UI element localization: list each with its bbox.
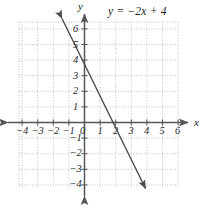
y-axis-label: y bbox=[78, 1, 83, 12]
coordinate-plane-svg bbox=[0, 0, 206, 212]
ytick-label--1: −1 bbox=[70, 133, 82, 144]
ytick-label--4: −4 bbox=[70, 179, 82, 190]
xtick-label--2: −2 bbox=[47, 126, 59, 137]
xtick-label-5: 5 bbox=[160, 126, 165, 137]
ytick-label--3: −3 bbox=[70, 164, 82, 175]
x-axis-label: x bbox=[194, 117, 199, 128]
ytick-label-6: 6 bbox=[73, 24, 78, 35]
xtick-label-3: 3 bbox=[129, 126, 134, 137]
xtick-label-6: 6 bbox=[175, 126, 180, 137]
xtick-label-4: 4 bbox=[144, 126, 149, 137]
ytick-label-2: 2 bbox=[73, 86, 78, 97]
ytick-label-4: 4 bbox=[73, 55, 78, 66]
graph-figure: y = −2x + 4 x y −4 −3 −2 −1 0 1 2 3 4 5 … bbox=[0, 0, 206, 212]
ytick-label-1: 1 bbox=[73, 102, 78, 113]
ytick-label-5: 5 bbox=[73, 40, 78, 51]
grid-lines bbox=[19, 22, 178, 188]
xtick-label-1: 1 bbox=[98, 126, 103, 137]
equation-annotation: y = −2x + 4 bbox=[108, 6, 167, 18]
xtick-label--3: −3 bbox=[32, 126, 44, 137]
xtick-label-2: 2 bbox=[113, 126, 118, 137]
xtick-label--4: −4 bbox=[16, 126, 28, 137]
ytick-label-3: 3 bbox=[73, 71, 78, 82]
ytick-label--2: −2 bbox=[70, 148, 82, 159]
